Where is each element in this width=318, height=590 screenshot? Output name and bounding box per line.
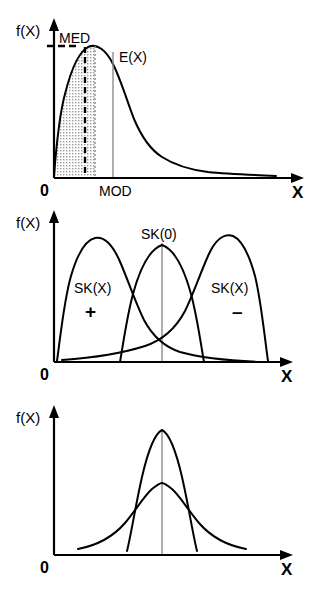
y-axis-label: f(X): [16, 22, 40, 39]
y-axis-label: f(X): [16, 214, 40, 231]
x-axis-arrow: [280, 550, 293, 560]
x-axis-arrow: [280, 357, 293, 367]
y-axis-arrow: [49, 210, 59, 223]
statistics-figure: MED E(X) MOD f(X) X 0 SK(X) + SK(0) SK(X…: [0, 0, 318, 590]
origin-label: 0: [40, 182, 49, 199]
y-axis-arrow: [49, 405, 59, 418]
x-axis-label: X: [281, 367, 293, 386]
panel-kurtosis: f(X) X 0: [16, 405, 293, 579]
x-axis-label: X: [292, 183, 304, 202]
skew-positive-label: SK(X): [74, 280, 111, 296]
mode-label: MOD: [99, 183, 132, 199]
origin-label: 0: [40, 366, 49, 383]
origin-label: 0: [40, 559, 49, 576]
skew-positive-sign: +: [85, 301, 96, 322]
median-label: MED: [59, 30, 90, 46]
x-axis-arrow: [291, 173, 304, 183]
mean-label: E(X): [119, 49, 147, 65]
y-axis-label: f(X): [16, 409, 40, 426]
skew-negative-sign: –: [232, 301, 243, 322]
panel-skewness: SK(X) + SK(0) SK(X) – f(X) X 0: [16, 210, 293, 386]
panel-skewed: MED E(X) MOD f(X) X 0: [16, 18, 304, 202]
x-axis-label: X: [281, 560, 293, 579]
figure-canvas: MED E(X) MOD f(X) X 0 SK(X) + SK(0) SK(X…: [0, 0, 318, 590]
skew-negative-label: SK(X): [211, 280, 248, 296]
y-axis-arrow: [49, 18, 59, 31]
positive-skew-curve: [57, 238, 262, 362]
negative-skew-curve: [62, 235, 268, 361]
skew-zero-label: SK(0): [141, 226, 177, 242]
